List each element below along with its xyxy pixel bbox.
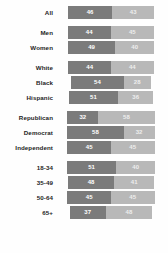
bar-group-overall: All4643 (0, 6, 164, 19)
bar-value-left: 51 (88, 161, 95, 174)
bar-segment-left[interactable]: 32 (67, 111, 98, 124)
row-label: Democrat (0, 126, 58, 139)
bar-segment-right[interactable]: 48 (106, 206, 153, 219)
row-label: 35-49 (0, 176, 58, 189)
bar-group-race: White4444Black5428Hispanic5136 (0, 61, 164, 104)
bar-area: 4841 (58, 176, 164, 189)
bar-value-left: 49 (88, 41, 95, 54)
crosstab-bar-chart: All4643Men4445Women4940White4444Black542… (0, 0, 168, 253)
stacked-bar[interactable]: 5832 (67, 126, 154, 139)
chart-row[interactable]: Independent4545 (0, 141, 164, 154)
bar-area: 5428 (58, 76, 164, 89)
stacked-bar[interactable]: 5136 (69, 91, 153, 104)
bar-value-right: 45 (129, 191, 136, 204)
bar-area: 5136 (58, 91, 164, 104)
bar-segment-right[interactable]: 40 (116, 161, 155, 174)
chart-row[interactable]: Women4940 (0, 41, 164, 54)
bar-segment-left[interactable]: 49 (68, 41, 116, 54)
bar-segment-left[interactable]: 45 (67, 191, 111, 204)
chart-row[interactable]: 18-345140 (0, 161, 164, 174)
bar-segment-left[interactable]: 48 (68, 176, 115, 189)
bar-value-left: 32 (79, 111, 86, 124)
stacked-bar[interactable]: 4444 (68, 61, 153, 74)
row-label: 50-64 (0, 191, 58, 204)
bar-value-left: 46 (87, 6, 94, 19)
bar-value-right: 45 (129, 26, 136, 39)
bar-segment-right[interactable]: 43 (112, 6, 154, 19)
bar-area: 4545 (58, 141, 164, 154)
stacked-bar[interactable]: 5140 (67, 161, 155, 174)
chart-row[interactable]: Republican3258 (0, 111, 164, 124)
bar-area: 5140 (58, 161, 164, 174)
bar-value-left: 45 (86, 141, 93, 154)
bar-segment-right[interactable]: 32 (124, 126, 155, 139)
bar-segment-left[interactable]: 37 (70, 206, 106, 219)
stacked-bar[interactable]: 4841 (68, 176, 154, 189)
row-label: All (0, 6, 58, 19)
stacked-bar[interactable]: 5428 (71, 76, 151, 89)
bar-segment-right[interactable]: 45 (111, 141, 155, 154)
bar-group-gender: Men4445Women4940 (0, 26, 164, 54)
bar-area: 4444 (58, 61, 164, 74)
bar-segment-left[interactable]: 46 (68, 6, 113, 19)
stacked-bar[interactable]: 4940 (68, 41, 154, 54)
bar-value-right: 36 (132, 91, 139, 104)
bar-segment-right[interactable]: 41 (114, 176, 154, 189)
chart-row[interactable]: White4444 (0, 61, 164, 74)
bar-area: 3748 (58, 206, 164, 219)
bar-segment-right[interactable]: 58 (98, 111, 154, 124)
bar-value-right: 43 (130, 6, 137, 19)
stacked-bar[interactable]: 4643 (68, 6, 154, 19)
bar-segment-right[interactable]: 40 (115, 41, 154, 54)
bar-segment-right[interactable]: 45 (111, 26, 155, 39)
bar-value-right: 40 (132, 161, 139, 174)
bar-segment-left[interactable]: 44 (68, 61, 111, 74)
row-label: 65+ (0, 206, 58, 219)
bar-value-left: 44 (86, 26, 93, 39)
bar-area: 5832 (58, 126, 164, 139)
bar-value-left: 54 (94, 76, 101, 89)
stacked-bar[interactable]: 4445 (68, 26, 154, 39)
stacked-bar[interactable]: 4545 (67, 141, 154, 154)
bar-value-right: 28 (134, 76, 141, 89)
chart-row[interactable]: Black5428 (0, 76, 164, 89)
bar-segment-right[interactable]: 36 (118, 91, 153, 104)
row-label: Women (0, 41, 58, 54)
chart-row[interactable]: 50-644545 (0, 191, 164, 204)
bar-segment-right[interactable]: 45 (111, 191, 155, 204)
bar-value-right: 41 (131, 176, 138, 189)
bar-segment-left[interactable]: 51 (67, 161, 116, 174)
row-label: Independent (0, 141, 58, 154)
row-label: Men (0, 26, 58, 39)
stacked-bar[interactable]: 3258 (67, 111, 154, 124)
bar-segment-right[interactable]: 44 (111, 61, 154, 74)
chart-row[interactable]: 35-494841 (0, 176, 164, 189)
bar-segment-left[interactable]: 44 (68, 26, 111, 39)
chart-row[interactable]: 65+3748 (0, 206, 164, 219)
chart-row[interactable]: Democrat5832 (0, 126, 164, 139)
bar-area: 4940 (58, 41, 164, 54)
bar-segment-left[interactable]: 58 (67, 126, 123, 139)
stacked-bar[interactable]: 3748 (70, 206, 152, 219)
bar-value-left: 37 (84, 206, 91, 219)
stacked-bar[interactable]: 4545 (67, 191, 154, 204)
bar-segment-left[interactable]: 45 (67, 141, 111, 154)
bar-value-right: 58 (123, 111, 130, 124)
bar-value-left: 48 (88, 176, 95, 189)
bar-area: 4545 (58, 191, 164, 204)
bar-value-left: 44 (86, 61, 93, 74)
row-label: Hispanic (0, 91, 58, 104)
bar-value-left: 58 (92, 126, 99, 139)
bar-value-right: 48 (125, 206, 132, 219)
chart-row[interactable]: All4643 (0, 6, 164, 19)
bar-group-age: 18-34514035-49484150-64454565+3748 (0, 161, 164, 219)
row-label: 18-34 (0, 161, 58, 174)
chart-row[interactable]: Men4445 (0, 26, 164, 39)
chart-row[interactable]: Hispanic5136 (0, 91, 164, 104)
bar-segment-left[interactable]: 54 (71, 76, 123, 89)
bar-group-party: Republican3258Democrat5832Independent454… (0, 111, 164, 154)
bar-segment-right[interactable]: 28 (124, 76, 151, 89)
bar-value-right: 45 (129, 141, 136, 154)
bar-segment-left[interactable]: 51 (69, 91, 118, 104)
bar-value-right: 44 (129, 61, 136, 74)
